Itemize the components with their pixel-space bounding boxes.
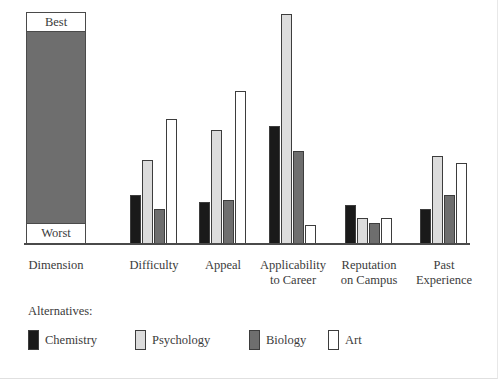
bar-art-appeal <box>235 91 246 244</box>
legend-swatch-psychology-icon <box>135 330 146 350</box>
bar-biology-reputation-on-campus <box>369 223 380 244</box>
bar-group <box>269 12 317 244</box>
bar-biology-past-experience <box>444 195 455 244</box>
bar-psychology-applicability-to-career <box>281 14 292 244</box>
legend-item-biology[interactable]: Biology <box>249 329 306 351</box>
bar-art-reputation-on-campus <box>381 218 392 244</box>
legend-swatch-chemistry-icon <box>28 330 39 350</box>
legend-item-chemistry[interactable]: Chemistry <box>28 329 97 351</box>
legend-item-art[interactable]: Art <box>328 329 362 351</box>
bar-art-difficulty <box>166 119 177 244</box>
axis-label-dimension: Dimension <box>26 258 86 273</box>
decision-matrix-bar-chart: Best Worst Dimension DifficultyAppealApp… <box>0 0 498 379</box>
bar-group <box>199 12 247 244</box>
bar-biology-appeal <box>223 200 234 244</box>
legend-item-psychology[interactable]: Psychology <box>135 329 210 351</box>
bar-psychology-past-experience <box>432 156 443 244</box>
bar-chemistry-difficulty <box>130 195 141 244</box>
legend-label-psychology: Psychology <box>152 333 210 348</box>
category-axis-labels: Dimension DifficultyAppealApplicability … <box>0 258 498 302</box>
bar-biology-difficulty <box>154 209 165 244</box>
bar-chemistry-applicability-to-career <box>269 126 280 244</box>
bar-group <box>130 12 178 244</box>
bar-art-applicability-to-career <box>305 225 316 244</box>
scale-best-label: Best <box>26 12 86 32</box>
bar-chemistry-appeal <box>199 202 210 244</box>
bar-chemistry-reputation-on-campus <box>345 205 356 244</box>
scale-worst-label: Worst <box>26 223 86 244</box>
bar-chemistry-past-experience <box>420 209 431 244</box>
legend-title: Alternatives: <box>28 304 93 319</box>
bar-psychology-reputation-on-campus <box>357 218 368 244</box>
legend-label-chemistry: Chemistry <box>45 333 97 348</box>
reference-scale-column: Best Worst <box>26 12 86 244</box>
bar-group <box>420 12 468 244</box>
axis-label-past-experience: Past Experience <box>399 258 489 288</box>
bar-psychology-appeal <box>211 130 222 244</box>
legend: ChemistryPsychologyBiologyArt <box>28 329 328 351</box>
legend-label-art: Art <box>345 333 362 348</box>
plot-area: Best Worst <box>0 0 498 250</box>
legend-label-biology: Biology <box>266 333 306 348</box>
legend-swatch-biology-icon <box>249 330 260 350</box>
bar-group <box>345 12 393 244</box>
bar-biology-applicability-to-career <box>293 151 304 244</box>
x-axis-line <box>24 243 470 245</box>
scale-range-fill <box>26 32 86 223</box>
bar-art-past-experience <box>456 163 467 244</box>
bar-psychology-difficulty <box>142 160 153 244</box>
legend-swatch-art-icon <box>328 330 339 350</box>
